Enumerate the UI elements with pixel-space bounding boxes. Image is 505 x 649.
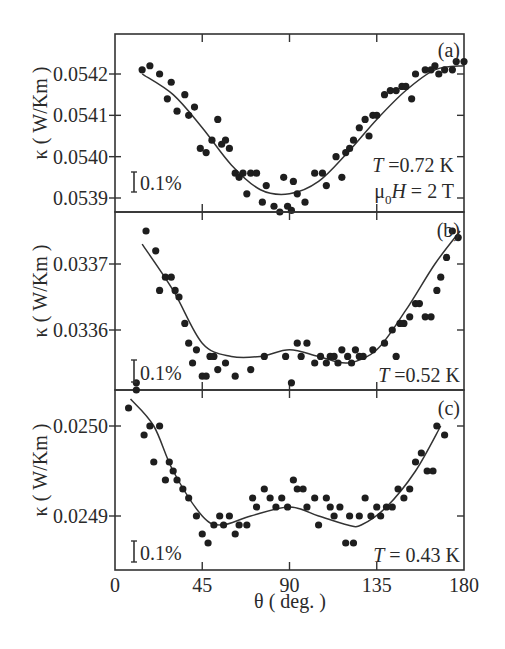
- panels: 0.05420.05410.05400.0539κ ( W/Km )(a)0.1…: [29, 34, 468, 570]
- data-point: [199, 530, 206, 537]
- data-point: [172, 287, 179, 294]
- data-point: [301, 199, 308, 206]
- data-point: [156, 70, 163, 77]
- data-point: [267, 494, 274, 501]
- data-point: [323, 359, 330, 366]
- panel-b: 0.03370.0336κ ( W/Km )(b)0.1%T =0.52 K: [29, 212, 464, 390]
- data-point: [243, 521, 250, 528]
- data-points: [125, 386, 448, 546]
- data-point: [323, 182, 330, 189]
- data-point: [181, 91, 188, 98]
- data-point: [239, 170, 246, 177]
- data-point: [416, 300, 423, 307]
- y-tick-label: 0.0250: [53, 415, 108, 437]
- data-point: [342, 539, 349, 546]
- data-point: [389, 326, 396, 333]
- data-point: [249, 494, 256, 501]
- data-point: [303, 340, 310, 347]
- data-point: [394, 485, 401, 492]
- data-point: [288, 379, 295, 386]
- data-point: [146, 422, 153, 429]
- data-point: [203, 373, 210, 380]
- data-point: [435, 70, 442, 77]
- field-annotation: μ0H = 2 T: [374, 180, 454, 207]
- data-point: [427, 313, 434, 320]
- data-point: [214, 116, 221, 123]
- data-point: [210, 521, 217, 528]
- data-point: [168, 79, 175, 86]
- data-point: [216, 512, 223, 519]
- data-point: [362, 494, 369, 501]
- data-point: [259, 199, 266, 206]
- data-point: [400, 320, 407, 327]
- data-point: [214, 366, 221, 373]
- data-point: [330, 512, 337, 519]
- data-point: [284, 503, 291, 510]
- data-point: [222, 359, 229, 366]
- data-point: [193, 346, 200, 353]
- data-point: [389, 503, 396, 510]
- data-point: [460, 58, 467, 65]
- data-point: [350, 137, 357, 144]
- data-point: [336, 503, 343, 510]
- data-point: [179, 485, 186, 492]
- panel-label: (b): [437, 219, 460, 242]
- data-point: [433, 287, 440, 294]
- panel-c: 0.02500.0249κ ( W/Km )(c)0.1%T = 0.43 K: [29, 386, 464, 570]
- data-point: [142, 227, 149, 234]
- data-point: [125, 404, 132, 411]
- data-point: [150, 458, 157, 465]
- data-point: [235, 521, 242, 528]
- y-tick-label: 0.0249: [53, 505, 108, 527]
- data-point: [181, 320, 188, 327]
- scale-bar-label: 0.1%: [140, 172, 182, 194]
- panel-a: 0.05420.05410.05400.0539κ ( W/Km )(a)0.1…: [29, 34, 468, 216]
- data-point: [412, 458, 419, 465]
- y-tick-label: 0.0542: [53, 63, 108, 85]
- data-point: [412, 70, 419, 77]
- scale-bar-label: 0.1%: [140, 542, 182, 564]
- data-point: [247, 366, 254, 373]
- y-tick-label: 0.0540: [53, 146, 108, 168]
- data-point: [311, 494, 318, 501]
- data-point: [270, 203, 277, 210]
- data-point: [418, 449, 425, 456]
- data-point: [156, 287, 163, 294]
- y-axis-label: κ ( W/Km ): [29, 424, 52, 517]
- y-tick-label: 0.0337: [53, 253, 108, 275]
- data-point: [406, 313, 413, 320]
- data-point: [140, 431, 147, 438]
- data-point: [381, 340, 388, 347]
- data-point: [298, 353, 305, 360]
- data-point: [282, 353, 289, 360]
- data-point: [222, 137, 229, 144]
- data-point: [232, 373, 239, 380]
- data-point: [449, 66, 456, 73]
- data-point: [315, 521, 322, 528]
- data-point: [189, 359, 196, 366]
- data-point: [146, 62, 153, 69]
- panel-label: (c): [438, 397, 460, 420]
- y-tick-label: 0.0541: [53, 104, 108, 126]
- y-axis-label: κ ( W/Km ): [29, 67, 52, 160]
- data-point: [162, 476, 169, 483]
- data-point: [156, 422, 163, 429]
- data-point: [173, 108, 180, 115]
- data-point: [437, 274, 444, 281]
- data-point: [332, 153, 339, 160]
- data-point: [272, 503, 279, 510]
- data-point: [299, 485, 306, 492]
- panel-label: (a): [438, 39, 460, 62]
- x-tick-label: 135: [362, 574, 392, 596]
- temperature-annotation: T =0.52 K: [378, 364, 460, 386]
- data-point: [443, 254, 450, 261]
- data-point: [133, 386, 140, 393]
- data-point: [441, 431, 448, 438]
- data-point: [185, 494, 192, 501]
- data-point: [139, 66, 146, 73]
- data-point: [226, 512, 233, 519]
- data-point: [208, 137, 215, 144]
- data-point: [311, 359, 318, 366]
- data-point: [367, 512, 374, 519]
- data-point: [204, 539, 211, 546]
